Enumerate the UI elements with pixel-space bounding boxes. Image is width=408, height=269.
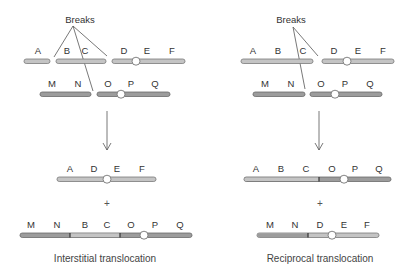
gene-label: O — [104, 78, 111, 89]
gene-label: D — [331, 45, 338, 56]
gene-label: Q — [366, 78, 373, 89]
product-2: M N D E F — [257, 219, 379, 239]
gene-label: B — [82, 219, 88, 230]
chromosome-2-before: M N O P Q — [253, 78, 382, 98]
down-arrow-icon — [315, 111, 323, 150]
gene-label: E — [355, 45, 361, 56]
gene-label: Q — [375, 163, 382, 174]
segment-mn — [253, 92, 305, 97]
centromere — [328, 231, 336, 239]
gene-label: Q — [176, 219, 183, 230]
translocation-diagram: Breaks A B C D E F M N O P Q — [0, 0, 408, 269]
gene-label: C — [300, 45, 307, 56]
segment-mn — [40, 92, 91, 97]
gene-label: D — [317, 219, 324, 230]
product-2: M N B C O P Q — [20, 219, 192, 239]
caption: Reciprocal translocation — [267, 253, 374, 264]
gene-label: N — [75, 78, 82, 89]
gene-label: A — [250, 45, 257, 56]
segment-opq — [97, 92, 170, 97]
gene-label: M — [261, 78, 269, 89]
gene-label: F — [364, 219, 370, 230]
product-1: A D E F — [57, 163, 156, 183]
gene-label: M — [266, 219, 274, 230]
plus-sign: + — [104, 198, 110, 209]
breaks-label: Breaks — [276, 14, 306, 25]
plus-sign: + — [317, 198, 323, 209]
gene-label: C — [104, 219, 111, 230]
centromere — [117, 90, 125, 98]
gene-label: B — [275, 45, 281, 56]
segment-abc — [241, 59, 313, 64]
gene-label: O — [328, 163, 335, 174]
segment-def — [112, 59, 185, 64]
gene-label: F — [380, 45, 386, 56]
gene-label: E — [114, 163, 120, 174]
gene-label: P — [152, 219, 158, 230]
breaks-label: Breaks — [65, 14, 95, 25]
segment-bc — [56, 59, 106, 64]
centromere — [331, 90, 339, 98]
left-panel: Breaks A B C D E F M N O P Q — [20, 14, 192, 264]
segment-def — [322, 59, 394, 64]
segment-abc — [244, 177, 319, 181]
gene-label: D — [121, 45, 128, 56]
gene-label: D — [91, 163, 98, 174]
gene-label: C — [82, 45, 89, 56]
gene-label: F — [169, 45, 175, 56]
gene-label: M — [48, 78, 56, 89]
gene-label: O — [127, 219, 134, 230]
gene-label: P — [128, 78, 134, 89]
gene-label: Q — [151, 78, 158, 89]
chromosome-2-before: M N O P Q — [40, 78, 170, 98]
product-1: A B C O P Q — [244, 163, 391, 183]
right-panel: Breaks A B C D E F M N O P Q — [241, 14, 394, 264]
gene-label: A — [253, 163, 260, 174]
segment-mn — [257, 233, 308, 237]
caption: Interstitial translocation — [54, 253, 156, 264]
centromere — [343, 57, 351, 65]
gene-label: O — [317, 78, 324, 89]
gene-label: A — [35, 45, 42, 56]
gene-label: E — [341, 219, 347, 230]
break-pointer — [293, 27, 305, 89]
gene-label: C — [303, 163, 310, 174]
break-pointer — [73, 26, 107, 56]
centromere — [340, 175, 348, 183]
gene-label: M — [27, 219, 35, 230]
centromere — [140, 231, 148, 239]
gene-label: B — [64, 45, 70, 56]
gene-label: P — [342, 78, 348, 89]
centromere — [103, 175, 111, 183]
segment-opq — [310, 92, 382, 97]
gene-label: F — [139, 163, 145, 174]
gene-label: A — [67, 163, 74, 174]
down-arrow-icon — [103, 111, 111, 150]
gene-label: N — [288, 78, 295, 89]
chromosome-1-before: A B C D E F — [24, 45, 185, 65]
segment-a — [24, 59, 50, 64]
gene-label: B — [278, 163, 284, 174]
gene-label: E — [144, 45, 150, 56]
inserted-segment-bc — [70, 233, 120, 237]
gene-label: P — [352, 163, 358, 174]
gene-label: N — [54, 219, 61, 230]
gene-label: N — [292, 219, 299, 230]
centromere — [132, 57, 140, 65]
